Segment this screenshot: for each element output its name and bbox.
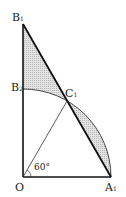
label-o: O bbox=[15, 182, 24, 193]
angle-label: 60° bbox=[34, 163, 50, 172]
label-b1: B1 bbox=[12, 12, 24, 23]
label-b2: B2 bbox=[11, 82, 23, 93]
geometry-figure bbox=[0, 0, 126, 197]
label-a1: A1 bbox=[105, 182, 117, 193]
label-c1: C1 bbox=[65, 88, 77, 99]
angle-arc-icon bbox=[27, 170, 31, 177]
